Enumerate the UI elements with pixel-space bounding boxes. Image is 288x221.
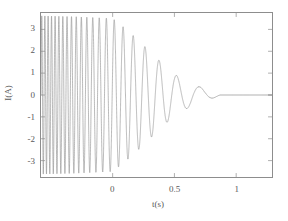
current-waveform-line xyxy=(41,16,272,174)
x-axis-title: t(s) xyxy=(128,199,188,209)
y-axis-title: I(A) xyxy=(3,71,13,115)
y-tick-label: 0 xyxy=(21,91,35,100)
y-tick-label: -1 xyxy=(21,113,35,122)
x-tick-label: 0 xyxy=(100,185,124,194)
figure: 3210-1-2-3 00.51 t(s) I(A) xyxy=(0,0,288,221)
plot-area xyxy=(40,12,273,178)
y-tick-label: 1 xyxy=(21,68,35,77)
y-tick-label: -3 xyxy=(21,157,35,166)
y-tick-label: 3 xyxy=(21,24,35,33)
data-trace-svg xyxy=(41,13,272,177)
x-tick-label: 0.5 xyxy=(163,185,187,194)
y-tick-label: 2 xyxy=(21,46,35,55)
x-tick-label: 1 xyxy=(225,185,249,194)
y-tick-label: -2 xyxy=(21,135,35,144)
